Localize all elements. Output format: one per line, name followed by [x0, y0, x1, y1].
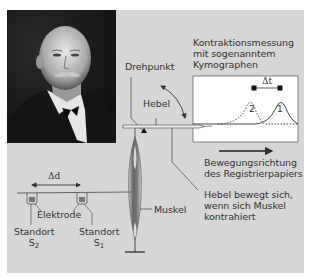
lever-note-line1: Hebel bewegt sich,: [204, 189, 293, 200]
nerve-line: [17, 192, 132, 193]
kymograph-title-line1: Kontraktionsmessung: [193, 37, 294, 48]
kymograph-title: Kontraktionsmessung mit sogenanntem Kymo…: [193, 37, 294, 70]
curve-2-label: 2: [249, 104, 255, 115]
delta-t-label: Δt: [262, 76, 272, 87]
site-1-label: Standort S1: [79, 226, 119, 252]
site-1-text: Standort: [79, 226, 119, 237]
lever-bar: [123, 125, 205, 128]
kymograph-title-line3: Kymographen: [193, 59, 294, 70]
paper-direction-line1: Bewegungsrichtung: [204, 157, 303, 168]
lever-label: Hebel: [143, 98, 170, 109]
lever-note-line3: kontrahiert: [204, 211, 293, 222]
site-2-text: Standort: [14, 226, 54, 237]
site-1-index: 1: [100, 242, 104, 250]
paper-direction-line2: des Registrierpapiers: [204, 168, 303, 179]
lever-note-label: Hebel bewegt sich, wenn sich Muskel kont…: [204, 189, 293, 222]
delta-d-label: Δd: [48, 171, 60, 182]
site-2-index: 2: [35, 242, 39, 250]
paper-direction-label: Bewegungsrichtung des Registrierpapiers: [204, 157, 303, 179]
kymograph-title-line2: mit sogenanntem: [193, 48, 294, 59]
muscle-label: Muskel: [154, 204, 186, 215]
electrode-label: Elektrode: [37, 209, 81, 220]
site-2-label: Standort S2: [14, 226, 54, 252]
curve-1-label: 1: [277, 104, 283, 115]
lever-note-line2: wenn sich Muskel: [204, 200, 293, 211]
pivot-label: Drehpunkt: [125, 61, 174, 72]
